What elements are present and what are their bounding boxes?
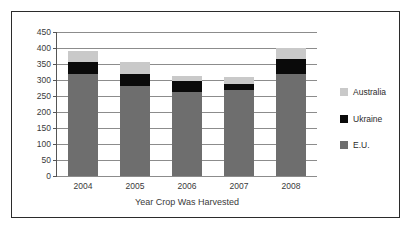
y-tick-mark-350 bbox=[53, 64, 57, 65]
x-axis-tick-label-2004: 2004 bbox=[74, 182, 93, 191]
x-axis-tick-label-2008: 2008 bbox=[282, 182, 301, 191]
bar-stack bbox=[224, 32, 254, 176]
plot-area: 050100150200250300350400450 200420052006… bbox=[57, 32, 317, 176]
bar-group-2007[interactable]: 2007 bbox=[224, 32, 254, 176]
legend-swatch-icon bbox=[340, 115, 348, 123]
figure-frame: 050100150200250300350400450 200420052006… bbox=[11, 11, 400, 218]
chart-legend: AustraliaUkraineE.U. bbox=[340, 88, 400, 168]
bar-segment-eu-2004[interactable] bbox=[68, 74, 98, 176]
y-tick-mark-50 bbox=[53, 160, 57, 161]
legend-entry-eu[interactable]: E.U. bbox=[340, 141, 400, 150]
bar-segment-australia-2005[interactable] bbox=[120, 62, 150, 74]
y-tick-mark-0 bbox=[53, 176, 57, 177]
y-axis-tick-label: 300 bbox=[37, 76, 51, 85]
bar-segment-australia-2004[interactable] bbox=[68, 51, 98, 62]
y-tick-mark-150 bbox=[53, 128, 57, 129]
x-axis-tick-label-2006: 2006 bbox=[178, 182, 197, 191]
legend-entry-australia[interactable]: Australia bbox=[340, 88, 400, 97]
y-axis-tick-label: 100 bbox=[37, 140, 51, 149]
y-axis-tick-label: 150 bbox=[37, 124, 51, 133]
bar-segment-australia-2008[interactable] bbox=[276, 48, 306, 59]
y-tick-mark-100 bbox=[53, 144, 57, 145]
legend-label: Australia bbox=[353, 88, 386, 97]
bar-segment-ukraine-2004[interactable] bbox=[68, 62, 98, 74]
legend-entry-ukraine[interactable]: Ukraine bbox=[340, 115, 400, 124]
y-axis-tick-label: 450 bbox=[37, 28, 51, 37]
bar-segment-eu-2006[interactable] bbox=[172, 92, 202, 176]
bar-segment-ukraine-2008[interactable] bbox=[276, 59, 306, 75]
bar-segment-ukraine-2006[interactable] bbox=[172, 81, 202, 92]
bar-segment-australia-2007[interactable] bbox=[224, 77, 254, 84]
bar-segment-eu-2005[interactable] bbox=[120, 86, 150, 176]
bar-segment-ukraine-2005[interactable] bbox=[120, 74, 150, 86]
bar-segment-australia-2006[interactable] bbox=[172, 76, 202, 81]
y-axis-tick-label: 400 bbox=[37, 44, 51, 53]
bar-group-2004[interactable]: 2004 bbox=[68, 32, 98, 176]
bar-stack bbox=[172, 32, 202, 176]
y-axis-tick-label: 0 bbox=[46, 172, 51, 181]
stacked-bar-chart: 050100150200250300350400450 200420052006… bbox=[12, 12, 399, 217]
bar-stack bbox=[276, 32, 306, 176]
y-tick-mark-250 bbox=[53, 96, 57, 97]
x-axis-tick-label-2005: 2005 bbox=[126, 182, 145, 191]
bar-group-2005[interactable]: 2005 bbox=[120, 32, 150, 176]
bar-segment-ukraine-2007[interactable] bbox=[224, 84, 254, 90]
bar-stack bbox=[68, 32, 98, 176]
y-axis-tick-label: 350 bbox=[37, 60, 51, 69]
x-axis-tick-label-2007: 2007 bbox=[230, 182, 249, 191]
gridline-0 bbox=[57, 176, 317, 177]
y-tick-mark-300 bbox=[53, 80, 57, 81]
bar-segment-eu-2008[interactable] bbox=[276, 74, 306, 176]
legend-label: E.U. bbox=[353, 141, 370, 150]
bar-stack bbox=[120, 32, 150, 176]
legend-swatch-icon bbox=[340, 141, 348, 149]
legend-swatch-icon bbox=[340, 88, 348, 96]
bar-group-2006[interactable]: 2006 bbox=[172, 32, 202, 176]
y-axis-tick-label: 250 bbox=[37, 92, 51, 101]
x-axis-title: Year Crop Was Harvested bbox=[57, 198, 317, 207]
y-tick-mark-400 bbox=[53, 48, 57, 49]
y-axis-tick-label: 50 bbox=[42, 156, 51, 165]
bar-segment-eu-2007[interactable] bbox=[224, 90, 254, 176]
bar-group-2008[interactable]: 2008 bbox=[276, 32, 306, 176]
y-axis-tick-label: 200 bbox=[37, 108, 51, 117]
legend-label: Ukraine bbox=[353, 115, 382, 124]
y-tick-mark-450 bbox=[53, 32, 57, 33]
y-axis-line bbox=[56, 32, 57, 176]
y-tick-mark-200 bbox=[53, 112, 57, 113]
